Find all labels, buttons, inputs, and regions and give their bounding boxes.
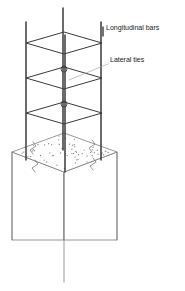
lateral-tie-2 — [26, 67, 102, 89]
lateral-tie-1 — [26, 32, 102, 54]
column-reinforcement-isometric-drawing — [0, 0, 185, 291]
lateral-tie-3 — [26, 102, 102, 124]
diagram-canvas: Longitudinal bars Lateral ties — [0, 0, 185, 291]
